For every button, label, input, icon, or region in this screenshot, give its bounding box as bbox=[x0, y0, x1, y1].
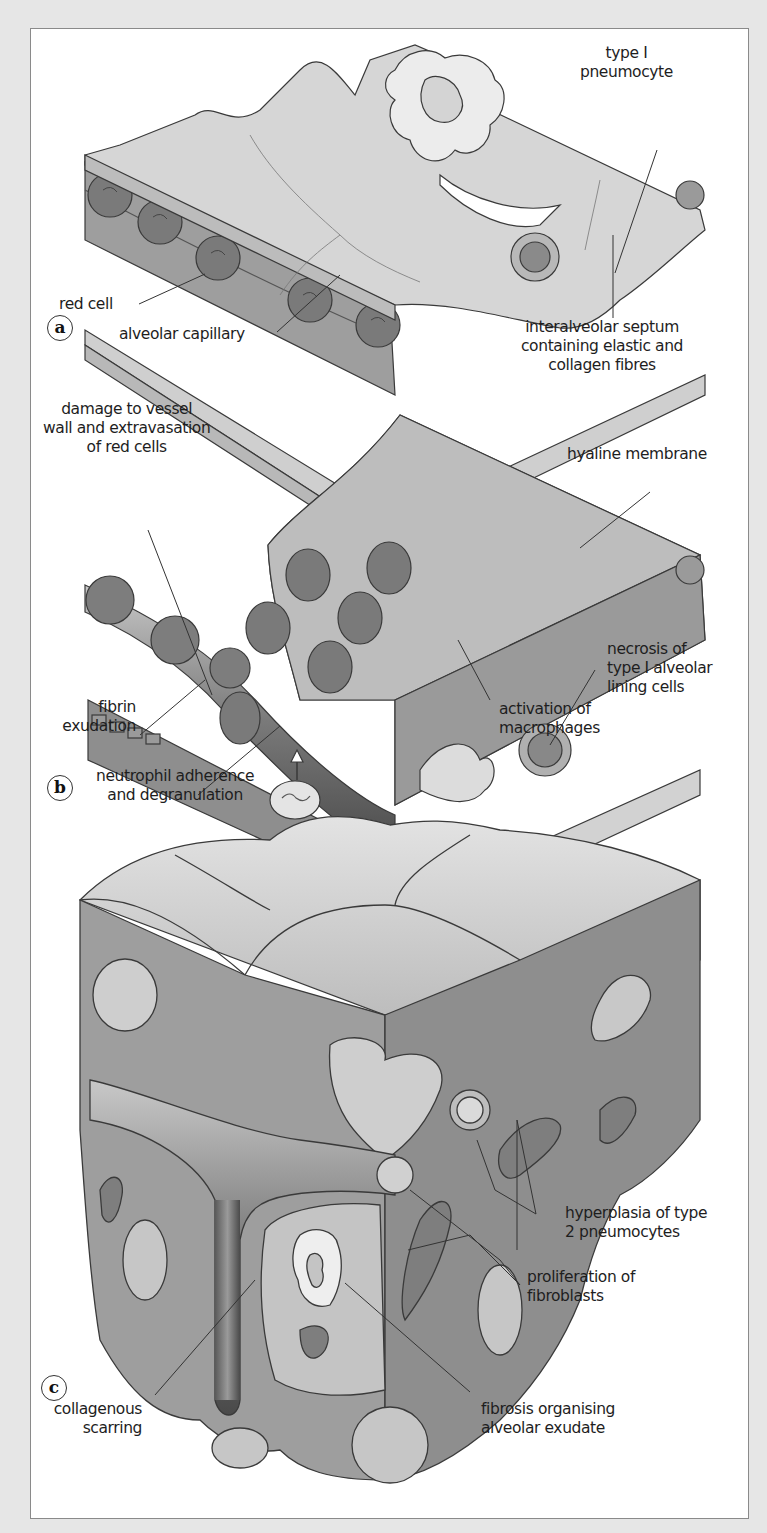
label-alveolar-capillary: alveolar capillary bbox=[119, 325, 245, 344]
label-fibroblasts: proliferation of fibroblasts bbox=[527, 1268, 635, 1306]
label-interalveolar-septum: interalveolar septum containing elastic … bbox=[521, 318, 683, 375]
label-macrophages: activation of macrophages bbox=[499, 700, 600, 738]
label-fibrin-exudation: fibrin exudation bbox=[43, 698, 136, 736]
label-hyaline-membrane: hyaline membrane bbox=[567, 445, 707, 464]
label-hyperplasia: hyperplasia of type 2 pneumocytes bbox=[565, 1204, 707, 1242]
panel-c-drawing bbox=[80, 817, 700, 1483]
label-necrosis: necrosis of type I alveolar lining cells bbox=[607, 640, 712, 697]
label-neutrophil: neutrophil adherence and degranulation bbox=[96, 767, 254, 805]
label-collagenous-scarring: collagenous scarring bbox=[34, 1400, 142, 1438]
label-red-cell: red cell bbox=[59, 295, 113, 314]
label-type1-pneumocyte: type I pneumocyte bbox=[580, 44, 673, 82]
label-vessel-damage: damage to vessel wall and extravasation … bbox=[43, 400, 210, 457]
panel-letter-b: b bbox=[47, 775, 73, 801]
panel-letter-c: c bbox=[41, 1375, 67, 1401]
label-fibrosis: fibrosis organising alveolar exudate bbox=[481, 1400, 615, 1438]
panel-letter-a: a bbox=[47, 315, 73, 341]
